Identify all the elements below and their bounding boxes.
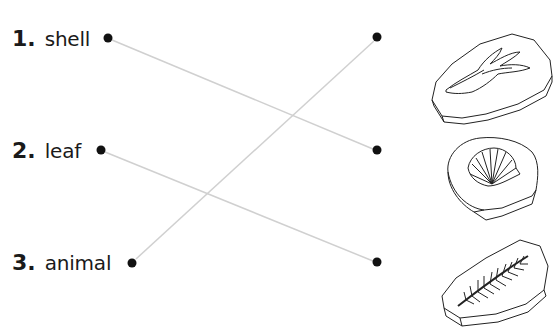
dot-right-3[interactable] <box>373 258 382 267</box>
leaf-fossil-icon <box>436 234 556 330</box>
connector-shell-to-shell-fossil <box>112 40 373 149</box>
animal-footprint-fossil-icon <box>422 30 558 130</box>
connector-animal-to-animal-fossil <box>136 41 374 259</box>
dot-right-1[interactable] <box>373 33 382 42</box>
shell-fossil-icon <box>440 134 544 224</box>
dot-right-2[interactable] <box>373 146 382 155</box>
dot-left-animal[interactable] <box>128 259 137 268</box>
dot-left-leaf[interactable] <box>97 146 106 155</box>
connector-leaf-to-leaf-fossil <box>105 152 373 261</box>
dot-left-shell[interactable] <box>104 34 113 43</box>
